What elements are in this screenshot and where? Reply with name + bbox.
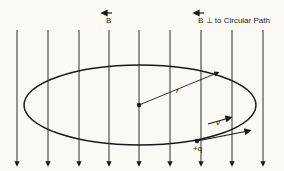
velocity-label: v xyxy=(216,118,220,127)
b-field-label: B xyxy=(106,16,111,25)
charge-label: +q xyxy=(193,144,202,153)
center-dot xyxy=(137,103,141,107)
magnetic-field-diagram: B B ⊥ to Circular Path r v +q xyxy=(0,0,284,171)
diagram-graphics xyxy=(0,0,284,171)
field-lines xyxy=(17,30,263,164)
b-perpendicular-label: B ⊥ to Circular Path xyxy=(198,16,270,25)
radius-label: r xyxy=(176,86,179,95)
